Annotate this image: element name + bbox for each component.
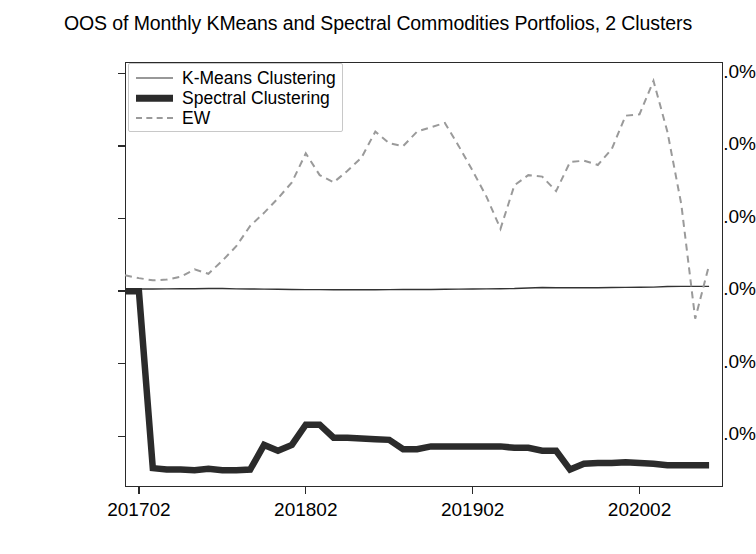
x-tick-label: 201902 — [441, 499, 504, 521]
x-tick-mark — [639, 487, 640, 494]
legend-label-kmeans: K-Means Clustering — [182, 68, 336, 88]
x-tick-mark — [472, 487, 473, 494]
x-tick-mark — [138, 487, 139, 494]
legend-item-kmeans: K-Means Clustering — [136, 68, 335, 88]
legend-item-spectral: Spectral Clustering — [136, 88, 335, 108]
legend-label-ew: EW — [182, 108, 210, 128]
thick-line-swatch — [136, 91, 173, 105]
x-tick-mark — [305, 487, 306, 494]
chart-legend: K-Means Clustering Spectral Clustering E… — [128, 63, 343, 132]
dashed-line-swatch — [136, 111, 173, 125]
x-tick-label: 201702 — [107, 499, 170, 521]
series-line-spectral-clustering — [125, 291, 709, 470]
legend-item-ew: EW — [136, 108, 335, 128]
chart-figure: OOS of Monthly KMeans and Spectral Commo… — [0, 0, 756, 554]
x-tick-label: 201802 — [274, 499, 337, 521]
legend-label-spectral: Spectral Clustering — [182, 88, 330, 108]
series-line-k-means-clustering — [125, 286, 709, 291]
x-tick-label: 202002 — [608, 499, 671, 521]
thin-line-swatch — [136, 71, 173, 85]
